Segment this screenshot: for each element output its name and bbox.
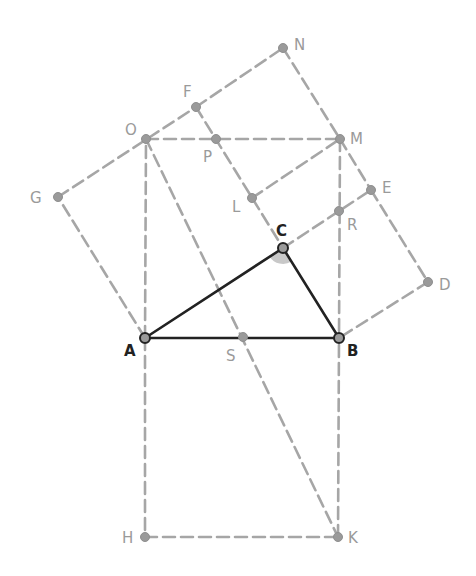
point-p[interactable]: [212, 135, 221, 144]
labels-layer: ABCDEFGHKLMNOPRS: [30, 36, 451, 547]
dashed-segment-ed: [371, 190, 428, 282]
point-m[interactable]: [336, 135, 345, 144]
point-a[interactable]: [140, 333, 150, 343]
label-e: E: [382, 179, 391, 197]
dashed-segment-ce: [283, 190, 371, 248]
label-o: O: [125, 121, 137, 139]
label-a: A: [124, 342, 136, 360]
points-layer: [54, 44, 433, 542]
label-k: K: [348, 529, 359, 547]
point-r[interactable]: [335, 207, 344, 216]
label-m: M: [350, 130, 363, 148]
label-n: N: [294, 36, 305, 54]
point-l[interactable]: [248, 194, 257, 203]
point-n[interactable]: [279, 44, 288, 53]
point-h[interactable]: [141, 533, 150, 542]
side-bc: [283, 248, 339, 338]
point-g[interactable]: [54, 193, 63, 202]
label-l: L: [232, 198, 241, 216]
label-d: D: [439, 276, 451, 294]
dashed-segment-db: [339, 282, 428, 338]
triangle-abc: [145, 248, 339, 338]
label-f: F: [183, 83, 192, 101]
point-o[interactable]: [142, 135, 151, 144]
point-c[interactable]: [278, 243, 288, 253]
dashed-segment-fc: [196, 107, 283, 248]
label-c: C: [276, 222, 287, 240]
label-b: B: [347, 342, 358, 360]
dashed-segment-ao: [145, 139, 146, 338]
label-s: S: [226, 347, 236, 365]
point-k[interactable]: [334, 533, 343, 542]
label-p: P: [203, 148, 212, 166]
label-h: H: [122, 529, 133, 547]
dashed-segment-fn: [196, 48, 283, 107]
side-ca: [145, 248, 283, 338]
dashed-segment-nm: [283, 48, 340, 139]
point-f[interactable]: [192, 103, 201, 112]
construction-lines: [58, 48, 428, 537]
label-g: G: [30, 189, 42, 207]
dashed-segment-ag: [58, 197, 145, 338]
dashed-segment-kb: [338, 338, 339, 537]
dashed-segment-lm: [252, 139, 340, 198]
point-d[interactable]: [424, 278, 433, 287]
point-e[interactable]: [367, 186, 376, 195]
point-s[interactable]: [239, 333, 248, 342]
dashed-segment-mb: [339, 139, 340, 338]
geometry-diagram: ABCDEFGHKLMNOPRS: [0, 0, 476, 576]
label-r: R: [347, 216, 357, 234]
point-b[interactable]: [334, 333, 344, 343]
